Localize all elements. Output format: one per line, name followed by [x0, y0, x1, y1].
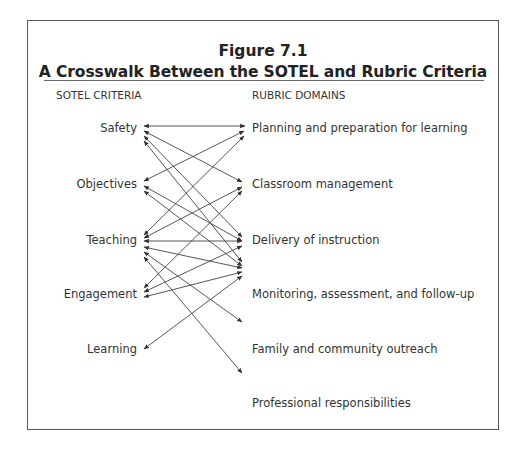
arrow-teaching-professional: [144, 257, 242, 373]
arrow-safety-monitoring: [144, 141, 242, 262]
arrow-teaching-monitoring: [144, 247, 242, 268]
arrow-engagement-monitoring: [144, 272, 242, 297]
arrow-engagement-delivery: [144, 246, 242, 292]
crosswalk-arrows: [0, 0, 522, 458]
arrow-objectives-monitoring: [144, 191, 242, 266]
arrow-engagement-classroom: [144, 191, 242, 288]
